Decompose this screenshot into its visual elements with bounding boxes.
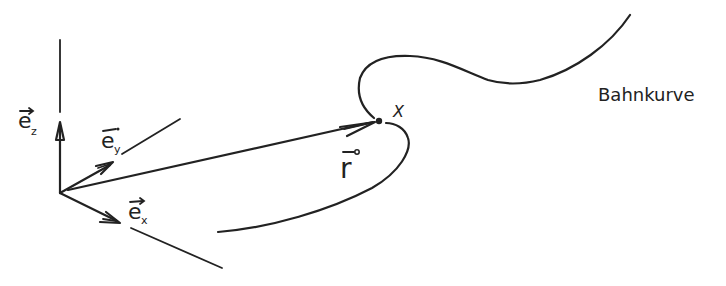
- x-axis-line: [131, 228, 222, 268]
- svg-text:z: z: [31, 125, 37, 138]
- label-ez: e z: [18, 108, 37, 138]
- svg-text:r: r: [340, 152, 352, 185]
- unit-vector-ex: [60, 193, 120, 223]
- point-x: [376, 118, 382, 124]
- unit-vector-ez: [56, 122, 64, 193]
- label-r: r: [340, 150, 359, 185]
- diagram-canvas: e z e y e x r X Bahnkurve: [0, 0, 726, 286]
- svg-text:x: x: [141, 214, 148, 227]
- unit-vector-ey: [60, 162, 113, 193]
- y-axis-line: [122, 119, 180, 154]
- label-point-x: X: [392, 102, 405, 121]
- label-ey: e y: [101, 128, 121, 157]
- label-bahnkurve: Bahnkurve: [598, 84, 695, 105]
- label-ex: e x: [128, 198, 148, 227]
- trajectory-curve: [218, 15, 630, 232]
- svg-text:y: y: [114, 143, 121, 156]
